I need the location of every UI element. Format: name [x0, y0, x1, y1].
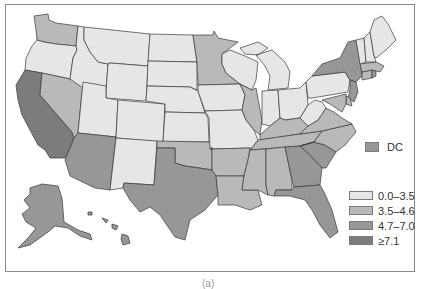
legend-swatch — [349, 206, 373, 215]
legend-label: 0.0–3.5 — [378, 190, 415, 202]
state-alaska[interactable] — [18, 184, 92, 248]
legend-swatch — [349, 236, 373, 245]
dc-label: DC — [387, 141, 403, 153]
state-florida[interactable] — [274, 185, 338, 238]
figure-caption: (a) — [202, 278, 214, 289]
dc-legend: DC — [365, 141, 403, 153]
state-arizona[interactable] — [65, 133, 116, 190]
state-north-dakota[interactable] — [148, 34, 197, 62]
legend-item: ≥7.1 — [349, 233, 415, 248]
map-legend: 0.0–3.5 3.5–4.6 4.7–7.0 ≥7.1 — [349, 188, 415, 248]
state-hawaii[interactable] — [88, 212, 130, 245]
state-maine[interactable] — [370, 16, 396, 58]
state-arkansas[interactable] — [210, 147, 250, 176]
legend-item: 4.7–7.0 — [349, 218, 415, 233]
state-kansas[interactable] — [163, 112, 209, 142]
state-new-mexico[interactable] — [110, 138, 157, 190]
legend-item: 0.0–3.5 — [349, 188, 415, 203]
legend-label: 3.5–4.6 — [378, 205, 415, 217]
legend-swatch — [349, 221, 373, 230]
state-south-dakota[interactable] — [147, 61, 197, 90]
legend-label: ≥7.1 — [378, 235, 399, 247]
dc-swatch — [365, 142, 379, 152]
legend-swatch — [349, 191, 373, 200]
legend-label: 4.7–7.0 — [378, 220, 415, 232]
state-colorado[interactable] — [116, 100, 165, 142]
state-iowa[interactable] — [198, 84, 245, 111]
legend-item: 3.5–4.6 — [349, 203, 415, 218]
state-wyoming[interactable] — [106, 63, 148, 101]
